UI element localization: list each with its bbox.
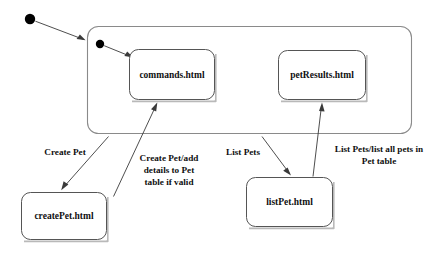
edge-label-list-pets-all-line-2: Pet table [362,156,396,166]
edge-label-create-pet: Create Pet [44,147,86,157]
edge-label-list-pets-line-1: List Pets [226,147,260,157]
state-commands-label: commands.html [139,70,205,80]
state-createpet-label: createPet.html [34,211,94,221]
statechart-svg: commands.html petResults.html createPet.… [0,0,440,255]
edge-label-list-pets: List Pets [226,147,260,157]
transition-commands-to-listpet[interactable] [262,137,291,176]
diagram-canvas: commands.html petResults.html createPet.… [0,0,440,255]
state-listpet-label: listPet.html [266,197,313,207]
state-commands-html[interactable]: commands.html [130,50,217,103]
transition-start-to-composite[interactable] [35,21,85,40]
edge-label-create-pet-line-1: Create Pet [44,147,86,157]
edge-label-create-pet-add-details: Create Pet/add details to Pet table if v… [140,153,199,187]
edge-label-list-pets-all-line-1: List Pets/list all pets in [335,144,423,154]
state-createpet-html[interactable]: createPet.html [22,193,109,243]
state-listpet-html[interactable]: listPet.html [247,178,335,230]
outer-initial-state-dot[interactable] [25,14,35,24]
transition-commands-to-createpet[interactable] [61,137,108,191]
edge-label-create-pet-add-details-line-1: Create Pet/add [140,153,199,163]
inner-initial-state-dot[interactable] [96,40,104,48]
state-petresults-html[interactable]: petResults.html [279,51,368,103]
edge-label-create-pet-add-details-line-2: details to Pet [144,165,195,175]
state-petresults-label: petResults.html [290,70,354,80]
edge-label-create-pet-add-details-line-3: table if valid [144,177,193,187]
edge-label-list-pets-all: List Pets/list all pets in Pet table [335,144,423,166]
